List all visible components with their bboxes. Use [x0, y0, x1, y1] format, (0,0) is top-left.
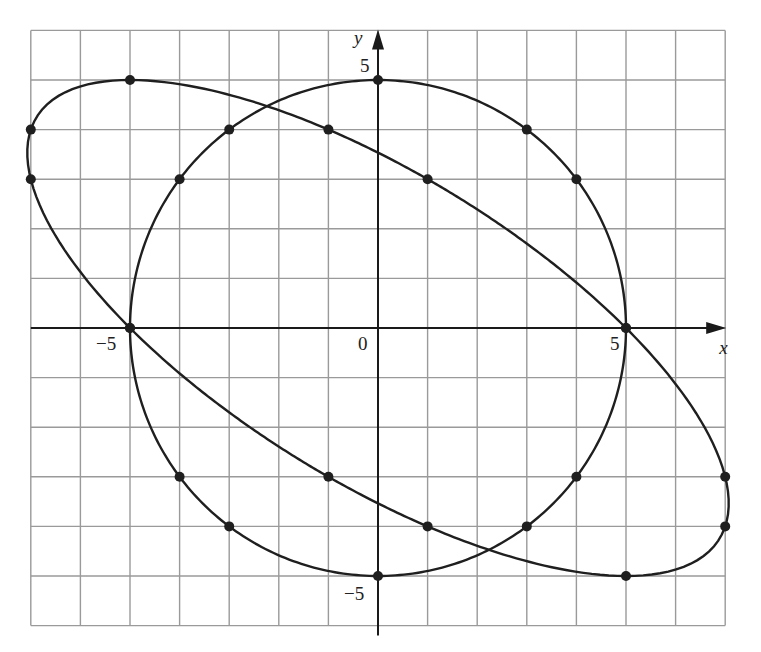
x-axis-arrow-icon: [706, 322, 726, 334]
data-point: [571, 472, 581, 482]
data-point: [125, 75, 135, 85]
data-point: [125, 323, 135, 333]
data-point: [621, 571, 631, 581]
data-point: [175, 472, 185, 482]
data-point: [522, 521, 532, 531]
y-tick-label-neg5: −5: [344, 583, 364, 604]
data-point: [423, 521, 433, 531]
axis-labels: x y −5 0 5 5 −5: [96, 27, 728, 604]
data-point: [26, 174, 36, 184]
data-point: [720, 521, 730, 531]
y-axis-arrow-icon: [372, 29, 384, 49]
conic-graph: x y −5 0 5 5 −5: [0, 0, 761, 652]
data-point: [323, 125, 333, 135]
data-point: [224, 521, 234, 531]
x-axis-label: x: [718, 337, 728, 358]
data-point: [720, 472, 730, 482]
y-tick-label-5: 5: [360, 55, 370, 76]
data-point: [621, 323, 631, 333]
data-point: [26, 125, 36, 135]
origin-label: 0: [358, 333, 368, 354]
x-tick-label-neg5: −5: [96, 333, 116, 354]
data-point: [423, 174, 433, 184]
data-point: [373, 75, 383, 85]
data-point: [373, 571, 383, 581]
y-axis-label: y: [352, 27, 363, 48]
data-point: [522, 125, 532, 135]
data-point: [571, 174, 581, 184]
data-point: [224, 125, 234, 135]
data-point: [175, 174, 185, 184]
data-point: [323, 472, 333, 482]
x-tick-label-5: 5: [610, 333, 620, 354]
